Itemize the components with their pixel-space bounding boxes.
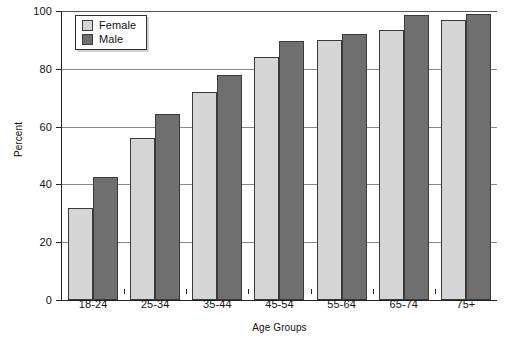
- bar-group: [186, 11, 248, 300]
- y-axis-title: Percent: [13, 90, 24, 190]
- bar-group: [373, 11, 435, 300]
- bar-groups: [62, 11, 497, 300]
- bar-male-55-64: [342, 34, 367, 300]
- x-tick-mark: [311, 289, 312, 294]
- x-tick-label: 18-24: [58, 298, 128, 310]
- bar-group: [62, 11, 124, 300]
- legend-swatch-male-icon: [82, 34, 93, 45]
- y-tick-label: 40: [18, 179, 52, 190]
- x-tick-mark: [186, 289, 187, 294]
- bar-group: [124, 11, 186, 300]
- bar-group: [311, 11, 373, 300]
- bar-female-65-74: [379, 30, 404, 300]
- x-tick-mark: [248, 289, 249, 294]
- bar-male-35-44: [217, 75, 242, 300]
- y-tick-label: 60: [18, 122, 52, 133]
- bar-female-55-64: [317, 40, 342, 300]
- bar-female-35-44: [192, 92, 217, 300]
- bar-male-25-34: [155, 114, 180, 300]
- x-tick-label: 75+: [431, 298, 501, 310]
- y-tick-label: 0: [18, 295, 52, 306]
- bar-male-65-74: [404, 15, 429, 300]
- legend-label-male: Male: [99, 34, 123, 45]
- x-tick-label: 65-74: [369, 298, 439, 310]
- x-tick-mark: [435, 289, 436, 294]
- bar-group: [248, 11, 310, 300]
- x-tick-mark: [124, 289, 125, 294]
- y-tick-label: 80: [18, 64, 52, 75]
- bar-male-18-24: [93, 177, 118, 300]
- legend-swatch-female-icon: [82, 20, 93, 31]
- x-tick-label: 45-54: [245, 298, 315, 310]
- legend-label-female: Female: [99, 20, 136, 31]
- bar-female-75+: [441, 20, 466, 300]
- bar-group: [435, 11, 497, 300]
- bar-chart: Percent 020406080100 18-2425-3435-4445-5…: [0, 0, 520, 345]
- y-tick-label: 20: [18, 237, 52, 248]
- bar-female-45-54: [254, 57, 279, 300]
- x-tick-label: 55-64: [307, 298, 377, 310]
- bar-female-25-34: [130, 138, 155, 300]
- bar-male-45-54: [279, 41, 304, 300]
- x-axis-title: Age Groups: [62, 322, 497, 333]
- x-tick-mark: [373, 289, 374, 294]
- legend-item-male: Male: [82, 34, 136, 45]
- y-tick-label: 100: [18, 6, 52, 17]
- x-tick-label: 35-44: [182, 298, 252, 310]
- plot-area: [62, 11, 497, 300]
- legend-item-female: Female: [82, 20, 136, 31]
- x-tick-label: 25-34: [120, 298, 190, 310]
- bar-female-18-24: [68, 208, 93, 300]
- bar-male-75+: [466, 14, 491, 300]
- legend: Female Male: [75, 15, 147, 50]
